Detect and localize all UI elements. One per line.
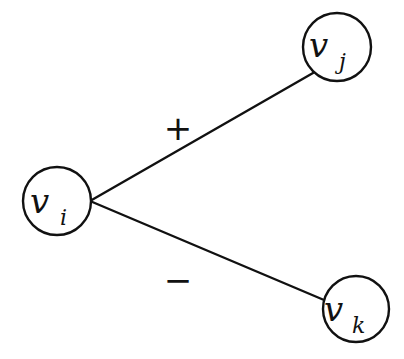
node-vi-subscript: i [60,205,67,230]
node-vk-subscript: k [352,313,365,338]
edge-vi-vj-positive [90,73,313,201]
node-vi-label: v [30,181,49,221]
node-vk: v k [323,276,389,342]
node-vk-label: v [324,289,343,329]
node-vj: v j [303,13,371,81]
negative-sign-label: − [164,260,193,300]
positive-sign-label: + [164,108,193,148]
node-vi: v i [23,167,91,235]
edge-vi-vk-negative [90,201,324,300]
signed-graph-diagram: + − v i v j v k [0,0,404,359]
node-vj-label: v [309,25,328,65]
